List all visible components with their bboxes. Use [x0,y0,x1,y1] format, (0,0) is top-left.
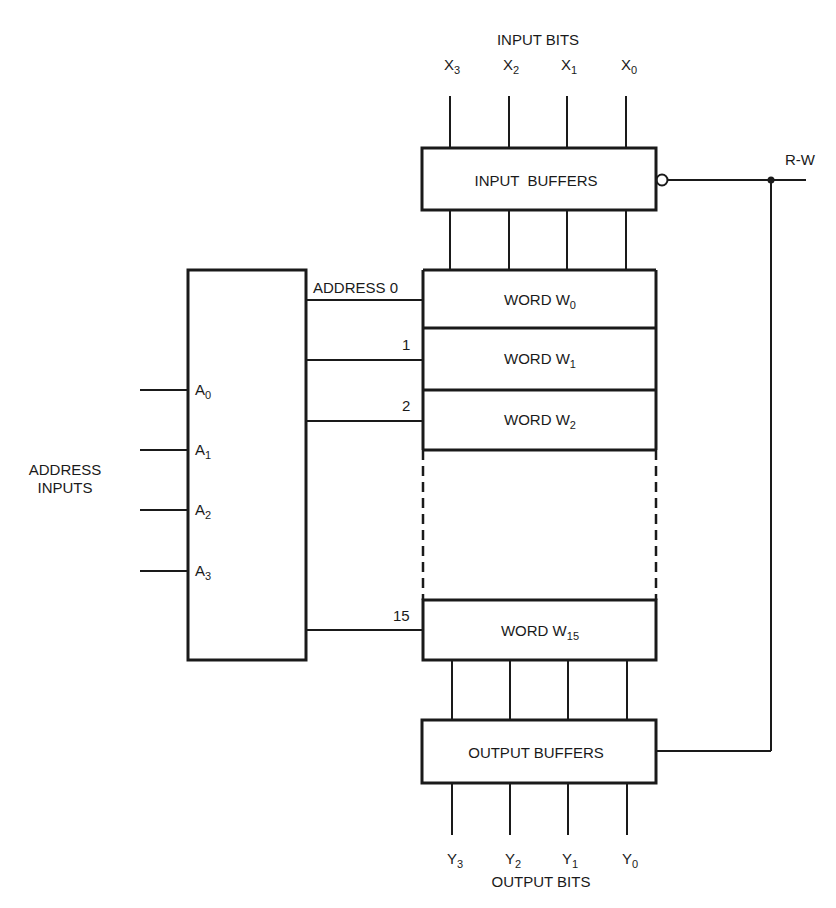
input-bit-x3: X3 [444,57,460,72]
address-inputs-title-line1: ADDRESS [29,462,102,477]
word-w1-label: WORD W1 [504,351,576,366]
word-prefix: WORD W [501,622,567,639]
bit-base: X [621,56,631,73]
input-bit-x2: X2 [503,57,519,72]
word-sub: 2 [570,419,576,431]
address-decoder-box [188,270,306,660]
output-bit-y2: Y2 [505,851,521,866]
output-bits-title: OUTPUT BITS [492,874,591,889]
input-bits-title: INPUT BITS [497,32,579,47]
address-pin-a2: A2 [195,502,211,517]
word-sub: 15 [567,630,579,642]
input-buffers-label: INPUT BUFFERS [474,173,597,188]
bit-sub: 0 [631,64,637,76]
pin-sub: 0 [205,389,211,401]
word-prefix: WORD W [504,411,570,428]
pin-sub: 1 [205,449,211,461]
address-15-label: 15 [393,608,410,623]
bit-base: X [444,56,454,73]
bit-base: Y [447,850,457,867]
bit-base: X [503,56,513,73]
pin-sub: 3 [205,570,211,582]
output-bit-y3: Y3 [447,851,463,866]
pin-base: A [195,441,205,458]
bit-base: X [561,56,571,73]
pin-sub: 2 [205,509,211,521]
output-buffers-label: OUTPUT BUFFERS [468,745,604,760]
bit-base: Y [505,850,515,867]
address-pin-a0: A0 [195,382,211,397]
input-bit-x1: X1 [561,57,577,72]
bit-sub: 0 [632,858,638,870]
address-2-label: 2 [402,398,410,413]
inversion-bubble [657,175,668,186]
word-prefix: WORD W [504,350,570,367]
address-1-label: 1 [402,337,410,352]
word-w15-label: WORD W15 [501,623,579,638]
address-0-label: ADDRESS 0 [313,280,398,295]
pin-base: A [195,562,205,579]
pin-base: A [195,501,205,518]
input-bit-x0: X0 [621,57,637,72]
address-pin-a1: A1 [195,442,211,457]
address-inputs-title-line2: INPUTS [37,480,92,495]
memory-diagram-lines [0,0,836,908]
bit-base: Y [622,850,632,867]
word-w2-label: WORD W2 [504,412,576,427]
bit-sub: 2 [513,64,519,76]
word-prefix: WORD W [504,291,570,308]
output-bit-y1: Y1 [562,851,578,866]
output-bit-y0: Y0 [622,851,638,866]
pin-base: A [195,381,205,398]
bit-sub: 3 [454,64,460,76]
word-sub: 0 [570,299,576,311]
bit-sub: 2 [515,858,521,870]
bit-sub: 1 [571,64,577,76]
address-pin-a3: A3 [195,563,211,578]
bit-sub: 3 [457,858,463,870]
rw-label: R-W [785,152,815,167]
bit-base: Y [562,850,572,867]
bit-sub: 1 [572,858,578,870]
word-w0-label: WORD W0 [504,292,576,307]
word-sub: 1 [570,358,576,370]
